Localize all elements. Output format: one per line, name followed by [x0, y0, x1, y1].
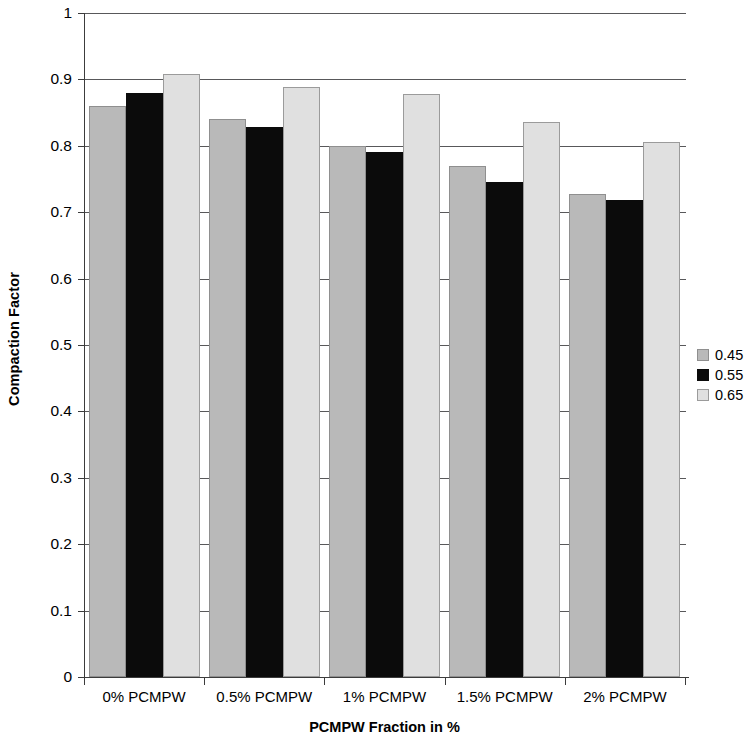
y-axis-tick: [78, 478, 85, 479]
gridline: [85, 212, 686, 213]
y-axis-tick-label: 0.2: [0, 535, 72, 553]
gridline: [85, 79, 686, 80]
y-axis-tick-label: 0.4: [0, 402, 72, 420]
y-axis-tick-label: 0.5: [0, 336, 72, 354]
legend-swatch-icon: [697, 349, 709, 361]
x-axis-tick-label: 1.5% PCMPW: [457, 688, 553, 705]
gridline: [85, 13, 686, 14]
x-axis-tick: [204, 677, 205, 685]
gridline: [85, 279, 686, 280]
y-axis-tick-label: 0: [0, 668, 72, 686]
y-axis-tick-label: 0.7: [0, 203, 72, 221]
x-axis-tick-label: 1% PCMPW: [343, 688, 426, 705]
y-axis-tick: [78, 345, 85, 346]
y-axis-tick: [78, 544, 85, 545]
bar-chart: Compaction Factor 00.10.20.30.40.50.60.7…: [0, 0, 753, 744]
x-axis-tick-label: 0% PCMPW: [102, 688, 185, 705]
legend-swatch-icon: [697, 369, 709, 381]
gridline: [85, 478, 686, 479]
y-axis-tick-label: 0.9: [0, 70, 72, 88]
y-axis-tick: [78, 212, 85, 213]
x-axis-line: [85, 677, 689, 678]
gridline: [85, 411, 686, 412]
x-axis-tick: [324, 677, 325, 685]
gridline: [85, 544, 686, 545]
y-axis-tick: [78, 146, 85, 147]
gridline: [85, 345, 686, 346]
y-axis-tick: [78, 611, 85, 612]
plot-area: [84, 13, 685, 677]
legend-label: 0.45: [715, 347, 743, 363]
x-axis-tick-label: 0.5% PCMPW: [216, 688, 312, 705]
gridline: [85, 146, 686, 147]
y-axis-tick-label: 0.6: [0, 270, 72, 288]
chart-legend: 0.450.550.65: [697, 345, 743, 405]
y-axis-tick: [78, 13, 85, 14]
legend-item: 0.55: [697, 365, 743, 385]
legend-label: 0.55: [715, 367, 743, 383]
y-axis-tick: [78, 79, 85, 80]
gridline: [85, 611, 686, 612]
x-axis-tick: [445, 677, 446, 685]
y-axis-tick-label: 1: [0, 4, 72, 22]
x-axis-tick: [565, 677, 566, 685]
legend-item: 0.45: [697, 345, 743, 365]
legend-label: 0.65: [715, 387, 743, 403]
y-axis-tick-label: 0.3: [0, 469, 72, 487]
legend-swatch-icon: [697, 389, 709, 401]
legend-item: 0.65: [697, 385, 743, 405]
y-axis-tick-label: 0.1: [0, 602, 72, 620]
x-axis-title: PCMPW Fraction in %: [84, 719, 685, 735]
y-axis-tick: [78, 411, 85, 412]
y-axis-tick-label: 0.8: [0, 137, 72, 155]
x-axis-tick-label: 2% PCMPW: [583, 688, 666, 705]
y-axis-tick: [78, 279, 85, 280]
x-axis-tick: [685, 677, 686, 685]
x-axis-tick: [84, 677, 85, 685]
